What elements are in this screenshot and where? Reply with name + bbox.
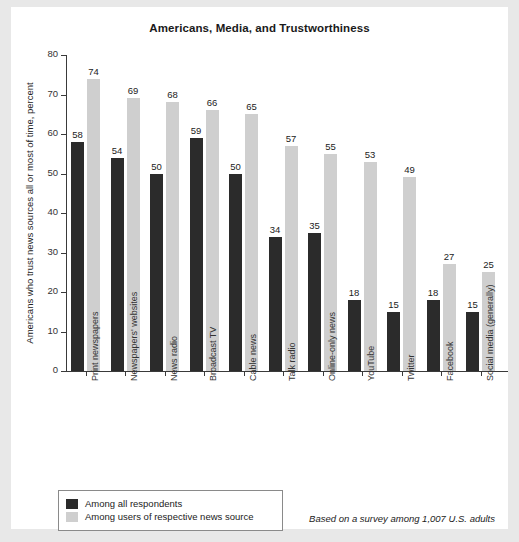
bar: 50 bbox=[150, 174, 163, 372]
category-label: Talk radio bbox=[287, 342, 297, 381]
y-axis-tick-label: 40 bbox=[47, 206, 58, 217]
y-axis-tick-label: 70 bbox=[47, 88, 58, 99]
bar-value-label: 74 bbox=[88, 66, 99, 77]
y-axis-tick: 30 bbox=[61, 253, 66, 254]
x-axis-tick bbox=[204, 371, 205, 376]
y-axis-tick: 40 bbox=[61, 213, 66, 214]
bar: 65 bbox=[245, 114, 258, 371]
bar-value-label: 68 bbox=[167, 89, 178, 100]
y-axis-tick-label: 50 bbox=[47, 167, 58, 178]
category-label: News radio bbox=[169, 336, 179, 381]
bar: 15 bbox=[387, 312, 400, 371]
bar-value-label: 49 bbox=[404, 164, 415, 175]
bar-value-label: 55 bbox=[325, 141, 336, 152]
bar-value-label: 35 bbox=[309, 220, 320, 231]
bar-value-label: 66 bbox=[207, 97, 218, 108]
y-axis-tick-label: 60 bbox=[47, 127, 58, 138]
bar-value-label: 57 bbox=[286, 133, 297, 144]
bar-value-label: 50 bbox=[151, 161, 162, 172]
x-axis-tick bbox=[86, 371, 87, 376]
bar: 49 bbox=[403, 177, 416, 371]
chart-title: Americans, Media, and Trustworthiness bbox=[11, 22, 508, 34]
y-axis-tick: 70 bbox=[61, 95, 66, 96]
bar-value-label: 27 bbox=[444, 251, 455, 262]
y-axis-tick: 20 bbox=[61, 292, 66, 293]
legend-swatch bbox=[66, 499, 78, 509]
bar: 18 bbox=[427, 300, 440, 371]
bar: 53 bbox=[364, 162, 377, 371]
y-axis-tick-label: 0 bbox=[53, 364, 58, 375]
bar-value-label: 59 bbox=[191, 125, 202, 136]
x-axis-tick bbox=[283, 371, 284, 376]
y-axis-tick-label: 30 bbox=[47, 246, 58, 257]
legend-item: Among all respondents bbox=[66, 498, 275, 509]
y-axis-line bbox=[66, 55, 67, 371]
x-axis-tick bbox=[362, 371, 363, 376]
category-label: Newspapers' websites bbox=[129, 292, 139, 381]
y-axis-tick: 80 bbox=[61, 55, 66, 56]
bar: 54 bbox=[111, 158, 124, 371]
y-axis-title-text: Americans who trust news sources all or … bbox=[24, 55, 35, 371]
bar-value-label: 53 bbox=[365, 149, 376, 160]
bar: 35 bbox=[308, 233, 321, 371]
y-axis-tick-label: 10 bbox=[47, 325, 58, 336]
plot-area: 01020304050607080 5874546950685966506534… bbox=[66, 55, 508, 371]
bar-value-label: 25 bbox=[483, 259, 494, 270]
bar-value-label: 58 bbox=[72, 129, 83, 140]
bar-value-label: 54 bbox=[112, 145, 123, 156]
category-label: YouTube bbox=[366, 346, 376, 381]
x-axis-tick bbox=[323, 371, 324, 376]
bar: 68 bbox=[166, 102, 179, 371]
bar-value-label: 18 bbox=[428, 287, 439, 298]
bar: 50 bbox=[229, 174, 242, 372]
bar: 18 bbox=[348, 300, 361, 371]
bar: 58 bbox=[71, 142, 84, 371]
category-label: Facebook bbox=[445, 341, 455, 381]
category-label: Online-only news bbox=[327, 312, 337, 381]
category-label: Cable news bbox=[248, 334, 258, 381]
category-label: Broadcast TV bbox=[208, 327, 218, 381]
chart-card: Americans, Media, and Trustworthiness Am… bbox=[11, 7, 508, 529]
y-axis-tick: 0 bbox=[61, 371, 66, 372]
y-axis-tick-label: 20 bbox=[47, 285, 58, 296]
category-label: Social media (generally) bbox=[485, 284, 495, 381]
bar: 59 bbox=[190, 138, 203, 371]
x-axis-tick bbox=[441, 371, 442, 376]
legend-label: Among users of respective news source bbox=[85, 511, 253, 522]
y-axis-tick: 10 bbox=[61, 332, 66, 333]
category-label: Twitter bbox=[406, 354, 416, 381]
bar: 57 bbox=[285, 146, 298, 371]
bar-value-label: 50 bbox=[230, 161, 241, 172]
x-axis-tick bbox=[402, 371, 403, 376]
bar: 34 bbox=[269, 237, 282, 371]
y-axis-tick: 60 bbox=[61, 134, 66, 135]
legend-swatch bbox=[66, 512, 78, 522]
legend-label: Among all respondents bbox=[85, 498, 182, 509]
bar-value-label: 65 bbox=[246, 101, 257, 112]
chart-annotation: Based on a survey among 1,007 U.S. adult… bbox=[309, 513, 495, 524]
x-axis-tick bbox=[244, 371, 245, 376]
y-axis-tick-label: 80 bbox=[47, 48, 58, 59]
x-axis-tick bbox=[125, 371, 126, 376]
y-axis-tick: 50 bbox=[61, 174, 66, 175]
bar-value-label: 69 bbox=[128, 85, 139, 96]
bar-value-label: 15 bbox=[467, 299, 478, 310]
legend-item: Among users of respective news source bbox=[66, 511, 275, 522]
y-axis-title: Americans who trust news sources all or … bbox=[24, 0, 38, 55]
legend: Among all respondentsAmong users of resp… bbox=[58, 490, 283, 531]
bar-value-label: 34 bbox=[270, 224, 281, 235]
x-axis-tick bbox=[165, 371, 166, 376]
category-label: Print newspapers bbox=[90, 311, 100, 381]
bar-value-label: 18 bbox=[349, 287, 360, 298]
bar: 15 bbox=[466, 312, 479, 371]
x-axis-tick bbox=[481, 371, 482, 376]
bar-value-label: 15 bbox=[388, 299, 399, 310]
